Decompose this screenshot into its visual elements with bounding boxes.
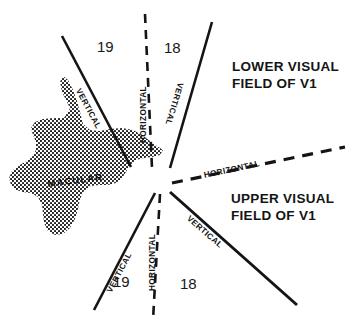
upper-visual-field-label: UPPER VISUAL FIELD OF V1: [231, 190, 334, 224]
area-number-19-upper: 19: [97, 38, 114, 55]
visual-field-diagram: MACULAR 19 18 19 18 VERTICAL HORIZONTAL …: [0, 0, 353, 326]
meridian-label-lower-mid-horizontal: HORIZONTAL: [148, 234, 157, 291]
lower-visual-field-label: LOWER VISUAL FIELD OF V1: [232, 58, 339, 92]
meridian-label-upper-mid-horizontal: HORIZONTAL: [139, 86, 148, 143]
area-number-18-upper: 18: [164, 39, 181, 56]
area-number-18-lower: 18: [180, 275, 197, 292]
